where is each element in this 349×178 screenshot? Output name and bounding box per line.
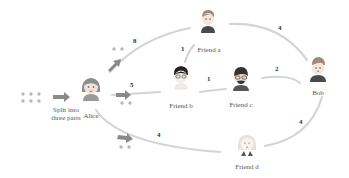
- weight-friend-d-bob: 4: [299, 118, 303, 126]
- weight-friend-b-friend-a: 1: [181, 45, 185, 53]
- friend-a-label: Friend a: [194, 46, 224, 54]
- split-dots-icon: [21, 92, 40, 102]
- friend-b-label: Friend b: [166, 102, 196, 110]
- edge-friend-b-friend-a: [185, 45, 194, 62]
- edge-friend-a-bob: [230, 24, 307, 60]
- friend-b-avatar[interactable]: [174, 66, 188, 89]
- weight-friend-c-bob: 2: [275, 65, 279, 73]
- weight-alice-friend-d: 4: [157, 131, 161, 139]
- arrow-to-friend-a-icon: [108, 59, 121, 72]
- weight-friend-b-friend-c: 1: [207, 75, 211, 83]
- friend-d-label: Friend d: [232, 163, 262, 171]
- weight-alice-friend-b: 5: [130, 81, 134, 89]
- friend-a-avatar[interactable]: [201, 10, 215, 33]
- weight-friend-a-bob: 4: [278, 24, 282, 32]
- edge-friend-d-bob: [265, 97, 322, 146]
- friend-d-avatar[interactable]: [238, 135, 256, 156]
- friend-c-avatar[interactable]: [233, 67, 249, 91]
- bob-avatar[interactable]: [310, 57, 326, 82]
- weight-alice-friend-a: 8: [133, 37, 137, 45]
- network-diagram: [0, 0, 349, 178]
- split-caption: Split into three parts: [46, 106, 86, 122]
- arrow-to-friend-b-icon: [116, 90, 131, 100]
- alice-label: Alice: [81, 112, 101, 120]
- edge-friend-b-friend-c: [200, 89, 226, 92]
- split-arrow-icon: [53, 92, 70, 102]
- bob-label: Bob: [308, 89, 328, 97]
- alice-avatar[interactable]: [82, 78, 100, 101]
- edge-friend-c-bob: [262, 77, 300, 83]
- friend-c-label: Friend c: [226, 101, 256, 109]
- split-caption-line2: three parts: [46, 114, 86, 122]
- split-caption-line1: Split into: [46, 106, 86, 114]
